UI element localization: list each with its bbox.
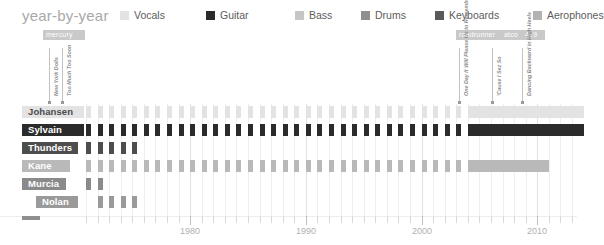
- axis-tick: [98, 216, 99, 223]
- legend-item-vocals[interactable]: Vocals: [120, 9, 165, 21]
- year-tick: [225, 106, 230, 118]
- year-tick: [283, 160, 288, 172]
- axis-tick: [294, 216, 295, 223]
- year-tick: [98, 160, 103, 172]
- year-tick: [86, 142, 91, 154]
- year-tick: [341, 124, 346, 136]
- year-tick: [260, 160, 265, 172]
- axis-tick: [549, 216, 550, 223]
- legend-item-guitar[interactable]: Guitar: [206, 9, 249, 21]
- year-tick: [422, 106, 427, 118]
- year-tick: [213, 124, 218, 136]
- year-tick: [341, 160, 346, 172]
- timeline-row[interactable]: [0, 196, 577, 208]
- axis-tick: [387, 216, 388, 223]
- axis-tick: [213, 216, 214, 223]
- x-axis: 1980199020002010: [0, 216, 577, 245]
- member-name-label[interactable]: Kane: [22, 160, 70, 172]
- year-tick: [410, 106, 415, 118]
- year-tick: [202, 160, 207, 172]
- axis-tick: [86, 216, 87, 223]
- continuous-span: [468, 160, 549, 172]
- axis-tick: [109, 216, 110, 223]
- legend-item-bass[interactable]: Bass: [295, 9, 332, 21]
- timeline-row[interactable]: [0, 142, 577, 154]
- axis-tick: [572, 216, 573, 223]
- year-tick: [86, 178, 91, 190]
- year-tick: [456, 106, 461, 118]
- legend-swatch-icon: [295, 11, 304, 20]
- year-tick: [364, 106, 369, 118]
- axis-tick: [491, 216, 492, 223]
- year-tick: [144, 124, 149, 136]
- album-title: Too Much Too Soon: [66, 45, 72, 96]
- legend-item-drums[interactable]: Drums: [361, 9, 406, 21]
- year-tick: [236, 124, 241, 136]
- axis-tick: [329, 216, 330, 223]
- year-tick: [294, 160, 299, 172]
- year-tick: [433, 160, 438, 172]
- member-name-label[interactable]: Nolan: [36, 196, 78, 208]
- record-label-badge[interactable]: mercury: [43, 30, 85, 40]
- year-tick: [121, 160, 126, 172]
- album-title: New York Dolls: [53, 57, 59, 96]
- year-tick: [422, 160, 427, 172]
- legend-label: Aerophones: [547, 9, 604, 21]
- member-name-label[interactable]: Thunders: [22, 142, 78, 154]
- year-tick: [190, 124, 195, 136]
- timeline-row[interactable]: [0, 160, 577, 172]
- timeline-row[interactable]: [0, 106, 577, 118]
- year-tick: [445, 106, 450, 118]
- year-tick: [179, 124, 184, 136]
- timeline-plot: JohansenSylvainThundersKaneMurciaNolan: [0, 104, 577, 216]
- year-tick: [271, 160, 276, 172]
- axis-tick: [560, 216, 561, 223]
- year-tick: [306, 160, 311, 172]
- member-name-label[interactable]: Sylvain: [22, 124, 84, 136]
- member-name-label[interactable]: Johansen: [22, 106, 84, 118]
- timeline-row[interactable]: [0, 178, 577, 190]
- axis-start-cap: [22, 216, 40, 220]
- year-tick: [306, 124, 311, 136]
- axis-tick-label: 2000: [412, 226, 432, 236]
- year-tick: [364, 124, 369, 136]
- year-tick: [86, 124, 91, 136]
- axis-tick: [341, 216, 342, 223]
- year-tick: [456, 124, 461, 136]
- year-tick: [271, 124, 276, 136]
- axis-tick: [445, 216, 446, 223]
- member-name-label[interactable]: Murcia: [22, 178, 66, 190]
- year-tick: [202, 124, 207, 136]
- year-tick: [98, 178, 103, 190]
- axis-tick: [398, 216, 399, 223]
- year-tick: [294, 124, 299, 136]
- year-tick: [144, 106, 149, 118]
- axis-tick: [144, 216, 145, 223]
- year-tick: [98, 124, 103, 136]
- timeline-row[interactable]: [0, 124, 577, 136]
- year-tick: [155, 160, 160, 172]
- year-tick: [433, 124, 438, 136]
- year-tick: [260, 106, 265, 118]
- axis-tick: [526, 216, 527, 223]
- axis-tick: [260, 216, 261, 223]
- year-tick: [167, 124, 172, 136]
- axis-tick: [283, 216, 284, 223]
- album-stem: [49, 48, 50, 104]
- year-tick: [167, 106, 172, 118]
- axis-tick: [132, 216, 133, 223]
- axis-tick-label: 2010: [527, 226, 547, 236]
- year-tick: [283, 106, 288, 118]
- axis-tick-label: 1980: [180, 226, 200, 236]
- axis-tick: [456, 216, 457, 223]
- year-tick: [132, 124, 137, 136]
- legend-swatch-icon: [533, 11, 542, 20]
- year-tick: [329, 124, 334, 136]
- year-tick: [86, 160, 91, 172]
- legend-item-aerophones[interactable]: Aerophones: [533, 9, 604, 21]
- year-tick: [98, 106, 103, 118]
- year-tick: [202, 106, 207, 118]
- year-tick: [375, 124, 380, 136]
- year-tick: [422, 124, 427, 136]
- year-tick: [283, 124, 288, 136]
